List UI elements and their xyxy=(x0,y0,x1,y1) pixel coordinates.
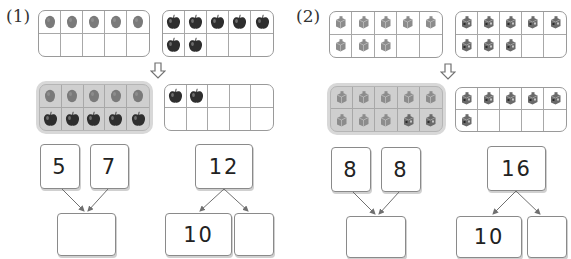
connector-arrows xyxy=(0,0,571,259)
